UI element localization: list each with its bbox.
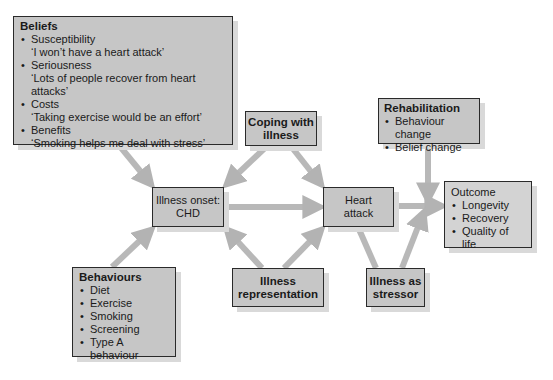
- arrow-coping-to-heart: [290, 145, 320, 183]
- behaviour-item: Diet: [79, 284, 169, 297]
- heart-attack-line1: Heart: [344, 194, 373, 207]
- outcome-title: Outcome: [451, 186, 525, 199]
- heart-attack-box: Heart attack: [323, 187, 394, 227]
- outcome-list: Longevity Recovery Quality of life: [451, 199, 525, 251]
- beliefs-box: Beliefs Susceptibility ‘I won’t have a h…: [13, 16, 233, 145]
- beliefs-title: Beliefs: [20, 20, 226, 33]
- rehabilitation-list: Behaviour change Belief change: [384, 115, 474, 154]
- behaviours-list: Diet Exercise Smoking Screening Type A b…: [79, 284, 169, 362]
- behaviour-item: Exercise: [79, 297, 169, 310]
- behaviour-item: Screening: [79, 323, 169, 336]
- belief-item: Benefits: [20, 124, 226, 137]
- behaviour-item: Smoking: [79, 310, 169, 323]
- arrow-representation-to-heart: [284, 231, 320, 268]
- arrow-coping-to-onset: [228, 145, 268, 183]
- illness-representation-line1: Illness: [238, 275, 318, 288]
- outcome-item: Longevity: [451, 199, 525, 212]
- behaviours-box: Behaviours Diet Exercise Smoking Screeni…: [72, 267, 176, 357]
- rehabilitation-box: Rehabilitation Behaviour change Belief c…: [378, 98, 480, 144]
- illness-representation-line2: representation: [238, 288, 318, 301]
- behaviour-item: Type A behaviour: [79, 336, 169, 362]
- beliefs-list: Susceptibility ‘I won’t have a heart att…: [20, 33, 226, 150]
- rehabilitation-item: Belief change: [384, 141, 474, 154]
- belief-quote: ‘Lots of people recover from heart attac…: [20, 72, 226, 98]
- illness-stressor-line2: stressor: [370, 288, 422, 301]
- arrow-behaviours-to-onset: [112, 231, 150, 267]
- illness-onset-line1: Illness onset:: [156, 194, 220, 207]
- outcome-box: Outcome Longevity Recovery Quality of li…: [444, 181, 532, 248]
- rehabilitation-title: Rehabilitation: [384, 102, 474, 115]
- outcome-item: Quality of life: [451, 225, 525, 251]
- belief-quote: ‘Taking exercise would be an effort’: [20, 111, 226, 124]
- belief-item: Seriousness: [20, 59, 226, 72]
- link-stressor-heart: [358, 227, 376, 268]
- belief-quote: ‘Smoking helps me deal with stress’: [20, 137, 226, 150]
- arrow-stressor-to-outcome: [402, 214, 423, 268]
- illness-onset-line2: CHD: [156, 207, 220, 220]
- illness-stressor-line1: Illness as: [370, 275, 422, 288]
- coping-line1: Coping with: [248, 116, 314, 129]
- illness-representation-box: Illness representation: [232, 268, 324, 307]
- belief-quote: ‘I won’t have a heart attack’: [20, 46, 226, 59]
- coping-line2: illness: [248, 129, 314, 142]
- heart-attack-line2: attack: [344, 207, 373, 220]
- arrow-representation-to-onset: [228, 231, 262, 268]
- rehabilitation-item: Behaviour change: [384, 115, 474, 141]
- illness-onset-box: Illness onset: CHD: [152, 187, 224, 227]
- behaviours-title: Behaviours: [79, 271, 169, 284]
- outcome-item: Recovery: [451, 212, 525, 225]
- belief-item: Susceptibility: [20, 33, 226, 46]
- coping-box: Coping with illness: [245, 111, 317, 146]
- belief-item: Costs: [20, 98, 226, 111]
- illness-stressor-box: Illness as stressor: [366, 268, 425, 307]
